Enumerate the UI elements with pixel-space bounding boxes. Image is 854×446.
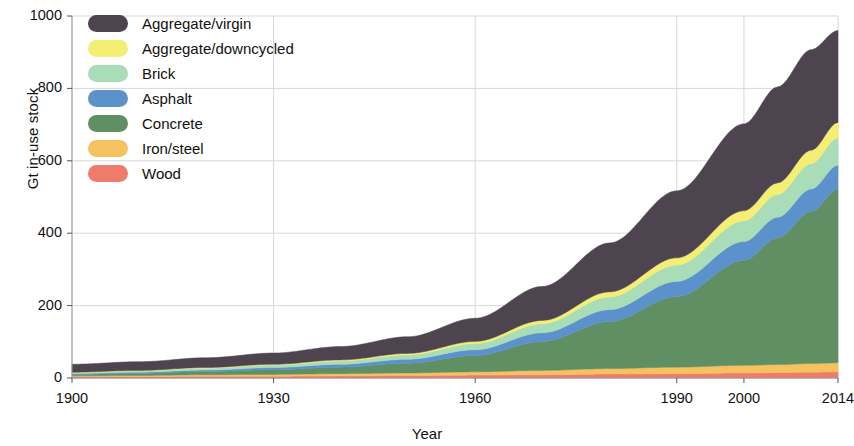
legend-item-label: Brick [142, 65, 175, 82]
y-tick-label: 1000 [10, 7, 62, 23]
y-tick-label: 200 [10, 297, 62, 313]
x-tick-label: 1960 [459, 390, 491, 406]
y-tick-label: 0 [10, 369, 62, 385]
legend-item-label: Asphalt [142, 90, 192, 107]
x-axis-title: Year [0, 425, 854, 442]
y-tick-label: 400 [10, 224, 62, 240]
legend-swatch-icon [88, 65, 128, 82]
legend-item-label: Aggregate/virgin [142, 15, 251, 32]
x-tick-label: 1900 [56, 390, 88, 406]
legend-item: Aggregate/virgin [88, 12, 294, 34]
legend-item: Concrete [88, 112, 294, 134]
x-tick-label: 1930 [257, 390, 289, 406]
x-tick-label: 2000 [728, 390, 760, 406]
legend-item: Asphalt [88, 87, 294, 109]
y-axis-title: Gt in-use stock [24, 59, 41, 219]
legend-swatch-icon [88, 140, 128, 157]
legend-item: Aggregate/downcycled [88, 37, 294, 59]
legend-swatch-icon [88, 15, 128, 32]
legend-swatch-icon [88, 90, 128, 107]
legend-swatch-icon [88, 115, 128, 132]
legend-swatch-icon [88, 40, 128, 57]
x-tick-label: 1990 [661, 390, 693, 406]
x-tick-label: 2014 [822, 390, 854, 406]
stacked-area-chart: 02004006008001000 1900193019601990200020… [0, 0, 854, 446]
legend-item-label: Concrete [142, 115, 203, 132]
legend-item-label: Iron/steel [142, 140, 204, 157]
legend-item: Wood [88, 162, 294, 184]
legend: Aggregate/virginAggregate/downcycledBric… [88, 12, 294, 184]
legend-item: Iron/steel [88, 137, 294, 159]
legend-item: Brick [88, 62, 294, 84]
legend-item-label: Wood [142, 165, 181, 182]
legend-item-label: Aggregate/downcycled [142, 40, 294, 57]
legend-swatch-icon [88, 165, 128, 182]
